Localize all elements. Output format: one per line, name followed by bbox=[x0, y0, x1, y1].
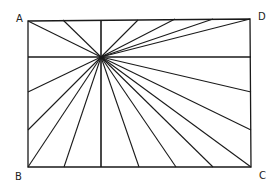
corner-label-b: B bbox=[15, 171, 22, 182]
corner-label-c: C bbox=[259, 170, 266, 181]
ray-line bbox=[101, 19, 250, 57]
ray-line bbox=[101, 57, 213, 167]
ray-line bbox=[101, 57, 251, 167]
radiating-lines bbox=[28, 19, 251, 167]
ray-line bbox=[28, 57, 101, 92]
corner-label-d: D bbox=[258, 11, 266, 22]
diagram-canvas bbox=[0, 0, 278, 182]
ray-line bbox=[101, 57, 251, 92]
ray-line bbox=[101, 57, 139, 167]
ray-line bbox=[28, 21, 101, 57]
ray-line bbox=[101, 57, 251, 130]
ray-line bbox=[63, 20, 101, 57]
ray-line bbox=[101, 19, 213, 57]
ray-line bbox=[101, 19, 175, 57]
ray-line bbox=[101, 20, 138, 57]
corner-label-a: A bbox=[16, 13, 23, 24]
ray-line bbox=[28, 57, 101, 167]
ray-line bbox=[28, 57, 101, 130]
rectangle-abcd bbox=[28, 19, 251, 167]
ray-line bbox=[101, 57, 176, 167]
ray-line bbox=[64, 57, 101, 167]
